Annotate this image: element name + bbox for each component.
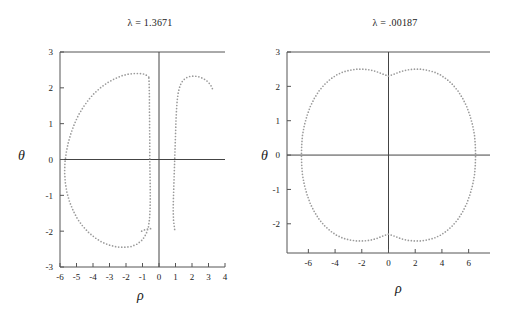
data-series-lower-tail bbox=[141, 228, 152, 232]
x-tick-label: 4 bbox=[440, 258, 445, 268]
left-panel-ylabel: θ bbox=[18, 148, 25, 164]
data-series-left-lobe bbox=[64, 73, 151, 248]
right-panel-title: λ = .00187 bbox=[305, 17, 485, 28]
left-panel-plot: -3-2-10123-6-5-4-3-2-101234 bbox=[0, 0, 250, 317]
y-tick-label: 1 bbox=[276, 116, 281, 126]
x-tick-label: 3 bbox=[206, 272, 211, 282]
left-panel-title: λ = 1.3671 bbox=[60, 17, 240, 28]
right-panel: λ = .00187 θ ρ -2-10123-6-4-20246 bbox=[250, 0, 510, 317]
x-tick-label: -6 bbox=[305, 258, 313, 268]
x-tick-label: -4 bbox=[89, 272, 97, 282]
x-tick-label: -1 bbox=[139, 272, 147, 282]
figure-container: λ = 1.3671 θ ρ -3-2-10123-6-5-4-3-2-1012… bbox=[0, 0, 510, 317]
x-tick-label: 2 bbox=[190, 272, 195, 282]
x-tick-label: -6 bbox=[56, 272, 64, 282]
right-panel-ylabel: θ bbox=[261, 148, 268, 164]
y-tick-label: 0 bbox=[276, 150, 281, 160]
y-tick-label: -2 bbox=[46, 227, 54, 237]
left-panel: λ = 1.3671 θ ρ -3-2-10123-6-5-4-3-2-1012… bbox=[0, 0, 250, 317]
y-tick-label: -3 bbox=[46, 262, 54, 272]
right-panel-xlabel: ρ bbox=[395, 281, 402, 297]
data-series-right-lobe bbox=[172, 75, 213, 230]
y-tick-label: -2 bbox=[273, 219, 281, 229]
y-tick-label: 2 bbox=[276, 82, 281, 92]
left-panel-xlabel: ρ bbox=[137, 288, 144, 304]
x-tick-label: 0 bbox=[386, 258, 391, 268]
y-tick-label: -1 bbox=[273, 185, 281, 195]
y-tick-label: 2 bbox=[49, 83, 54, 93]
y-tick-label: -1 bbox=[46, 191, 54, 201]
right-panel-plot: -2-10123-6-4-20246 bbox=[250, 0, 510, 317]
x-tick-label: -5 bbox=[73, 272, 81, 282]
y-tick-label: 3 bbox=[49, 47, 54, 57]
x-tick-label: -2 bbox=[122, 272, 130, 282]
x-tick-label: -3 bbox=[106, 272, 114, 282]
y-tick-label: 0 bbox=[49, 155, 54, 165]
x-tick-label: 0 bbox=[157, 272, 162, 282]
y-tick-label: 1 bbox=[49, 119, 54, 129]
y-tick-label: 3 bbox=[276, 47, 281, 57]
x-tick-label: -2 bbox=[358, 258, 366, 268]
x-tick-label: 4 bbox=[223, 272, 228, 282]
x-tick-label: 2 bbox=[413, 258, 418, 268]
x-tick-label: 1 bbox=[173, 272, 178, 282]
x-tick-label: 6 bbox=[466, 258, 471, 268]
x-tick-label: -4 bbox=[331, 258, 339, 268]
